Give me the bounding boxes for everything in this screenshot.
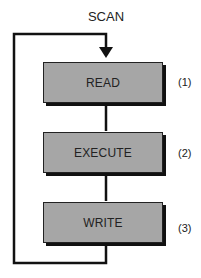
step-number-3: (3) [178, 222, 191, 234]
arrow-down-icon [99, 47, 113, 58]
step-box-write: WRITE [43, 202, 163, 243]
step-box-read: READ [43, 62, 163, 103]
step-number-1: (1) [178, 76, 191, 88]
diagram-title: SCAN [0, 9, 201, 24]
step-box-execute: EXECUTE [43, 132, 163, 173]
step-number-2: (2) [178, 147, 191, 159]
